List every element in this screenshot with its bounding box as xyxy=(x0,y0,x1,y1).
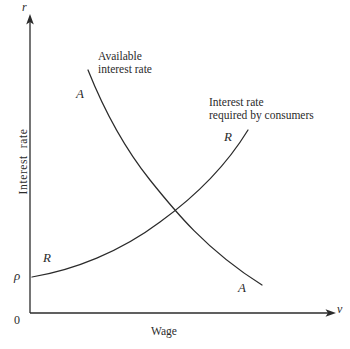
y-axis-title: Interest rate xyxy=(17,116,30,206)
annotation-required-interest-rate: Interest rate required by consumers xyxy=(209,96,314,122)
x-axis-title: Wage xyxy=(151,325,177,338)
curve-label-a-upper: A xyxy=(76,87,84,102)
curve-label-r-lower: R xyxy=(43,251,51,266)
interest-rate-wage-diagram: r v ρ 0 A A R R Available interest rate … xyxy=(0,0,350,349)
x-axis-variable-label: v xyxy=(337,303,342,316)
curve-label-r-upper: R xyxy=(224,130,232,145)
curve-label-a-lower: A xyxy=(238,281,246,296)
origin-label: 0 xyxy=(14,314,20,327)
annotation-available-interest-rate: Available interest rate xyxy=(98,50,152,76)
curve-r-required-interest-rate xyxy=(32,130,248,277)
y-axis-tick-rho: ρ xyxy=(14,269,20,284)
y-axis-variable-label: r xyxy=(22,1,27,14)
plot-canvas xyxy=(0,0,350,349)
